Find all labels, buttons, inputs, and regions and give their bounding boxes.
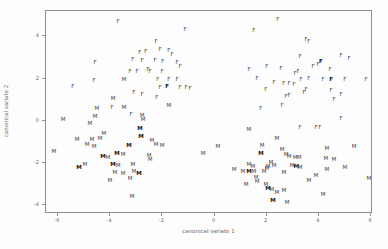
data-point-F: F xyxy=(348,56,351,62)
data-point-F: F xyxy=(149,69,152,75)
x-axis-tick xyxy=(214,213,215,216)
data-point-M: M xyxy=(114,151,119,157)
data-point-F: F xyxy=(264,87,267,93)
x-axis-tick-label: 4 xyxy=(308,217,328,223)
data-point-F: F xyxy=(292,82,295,88)
x-axis-label: canonical variate 1 xyxy=(45,228,372,234)
data-point-M: M xyxy=(241,169,246,175)
x-axis-tick-label: -2 xyxy=(151,217,171,223)
data-point-F: F xyxy=(252,28,255,34)
data-point-F: F xyxy=(92,78,95,84)
x-axis-tick xyxy=(161,213,162,216)
data-point-F: F xyxy=(153,58,156,64)
data-point-M: M xyxy=(126,143,131,149)
data-point-F: F xyxy=(302,90,305,96)
data-point-F: F xyxy=(339,53,342,59)
data-point-F: F xyxy=(307,39,310,45)
y-axis-tick xyxy=(42,120,45,121)
data-point-M: M xyxy=(216,144,221,150)
data-point-M: M xyxy=(52,149,57,155)
x-axis-tick-label: -6 xyxy=(47,217,67,223)
data-point-F: F xyxy=(265,64,268,70)
y-axis-tick-label: -2 xyxy=(24,159,39,165)
data-point-M: M xyxy=(121,171,126,177)
data-point-F: F xyxy=(175,77,178,83)
data-point-F: F xyxy=(156,77,159,83)
data-point-F: F xyxy=(170,52,173,58)
data-point-F: F xyxy=(132,90,135,96)
y-axis-tick-label: -4 xyxy=(24,201,39,207)
data-point-M: M xyxy=(272,163,277,169)
data-point-M: M xyxy=(92,144,97,150)
data-point-F: F xyxy=(298,125,301,131)
data-point-M: M xyxy=(95,106,100,112)
data-point-M: M xyxy=(282,188,287,194)
data-point-M: M xyxy=(131,162,136,168)
data-point-M: M xyxy=(307,178,312,184)
data-point-F: F xyxy=(185,85,188,91)
data-point-M: M xyxy=(128,176,133,182)
data-point-F: F xyxy=(71,84,74,90)
data-point-M: M xyxy=(352,144,357,150)
data-point-F: F xyxy=(183,27,186,33)
data-point-F: F xyxy=(321,77,324,83)
data-point-M: M xyxy=(285,200,290,206)
data-point-M: M xyxy=(274,190,279,196)
data-point-F: F xyxy=(161,59,164,65)
data-point-F: F xyxy=(296,69,299,75)
data-point-M: M xyxy=(148,157,153,163)
data-point-M: M xyxy=(314,173,319,179)
scatter-plot-figure: canonical variate 1 canonical variate 2 … xyxy=(0,0,388,249)
y-axis-tick xyxy=(42,162,45,163)
data-point-F: F xyxy=(188,86,191,92)
data-point-M: M xyxy=(113,170,118,176)
data-point-F: F xyxy=(314,125,317,131)
y-axis-tick-label: 0 xyxy=(24,117,39,123)
data-point-M: M xyxy=(270,198,275,204)
data-point-F: F xyxy=(135,69,138,75)
data-point-F: F xyxy=(300,77,303,83)
data-point-F: F xyxy=(155,39,158,45)
y-axis-tick-label: 2 xyxy=(24,75,39,81)
data-point-F: F xyxy=(282,81,285,87)
data-point-F: F xyxy=(288,81,291,87)
data-point-M: M xyxy=(88,121,93,127)
data-point-M: M xyxy=(116,163,121,169)
data-point-M: M xyxy=(76,165,81,171)
data-point-F: F xyxy=(247,67,250,73)
y-axis-label: canonical variate 2 xyxy=(3,11,13,211)
data-point-M: M xyxy=(61,117,66,123)
data-point-F: F xyxy=(332,97,335,103)
data-point-M: M xyxy=(98,136,103,142)
data-point-M: M xyxy=(111,96,116,102)
x-axis-tick xyxy=(109,213,110,216)
data-point-F: F xyxy=(272,80,275,86)
data-point-F: F xyxy=(329,77,333,83)
data-point-F: F xyxy=(179,64,182,70)
data-point-M: M xyxy=(85,142,90,148)
data-point-M: M xyxy=(258,151,263,157)
data-point-F: F xyxy=(307,76,310,82)
data-point-M: M xyxy=(244,182,249,188)
data-point-M: M xyxy=(265,166,270,172)
data-point-F: F xyxy=(140,92,143,98)
data-point-F: F xyxy=(339,116,342,122)
data-point-F: F xyxy=(259,106,262,112)
data-point-M: M xyxy=(93,114,98,120)
data-point-F: F xyxy=(328,67,331,73)
x-axis-tick-label: 0 xyxy=(204,217,224,223)
data-point-F: F xyxy=(158,47,161,53)
y-axis-tick xyxy=(42,78,45,79)
data-point-M: M xyxy=(167,103,172,109)
data-point-M: M xyxy=(122,105,127,111)
data-point-F: F xyxy=(343,77,346,83)
data-point-M: M xyxy=(160,143,165,149)
data-point-M: M xyxy=(154,142,159,148)
x-axis-tick-label: 6 xyxy=(360,217,380,223)
data-point-M: M xyxy=(90,137,95,143)
y-axis-tick xyxy=(42,204,45,205)
data-point-F: F xyxy=(255,76,258,82)
data-point-F: F xyxy=(364,77,367,83)
data-point-M: M xyxy=(282,170,287,176)
data-point-F: F xyxy=(318,125,321,131)
